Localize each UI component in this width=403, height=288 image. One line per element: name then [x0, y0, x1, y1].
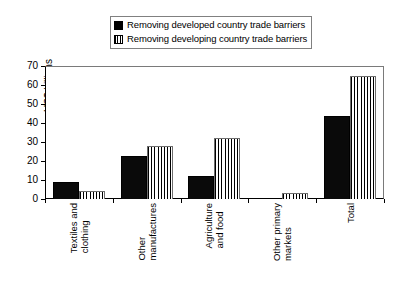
vertical-stripe-swatch-icon [114, 35, 123, 44]
bar-series1 [121, 156, 147, 199]
bar-chart: Removing developed country trade barrier… [0, 0, 403, 288]
x-axis-label-line2: manufactures [147, 203, 158, 261]
bar-group [248, 66, 316, 199]
x-tick-mark [384, 199, 385, 203]
bar-group [316, 66, 384, 199]
x-axis-labels: Textiles andclothingOthermanufacturesAgr… [45, 203, 384, 288]
bar-group [45, 66, 113, 199]
y-tick-label: 0 [32, 193, 38, 204]
legend-item-developing: Removing developing country trade barrie… [114, 33, 307, 45]
x-label-cell: Othermanufactures [113, 203, 181, 288]
y-tick-label: 20 [27, 155, 38, 166]
bar-group [113, 66, 181, 199]
x-axis-label: Textiles andclothing [68, 203, 90, 253]
y-tick-label: 60 [27, 79, 38, 90]
x-axis-label-line2: markets [282, 203, 293, 261]
x-axis-label-line1: Agriculture [203, 203, 214, 248]
chart-legend: Removing developed country trade barrier… [110, 16, 312, 49]
y-tick-label: 40 [27, 117, 38, 128]
x-label-cell: Total [316, 203, 384, 288]
x-axis-label-line2: clothing [79, 203, 90, 253]
legend-label-developed: Removing developed country trade barrier… [127, 20, 305, 30]
y-axis-ticks: 010203040506070 [0, 0, 45, 200]
bar-series2 [79, 191, 105, 199]
x-label-cell: Other primarymarkets [248, 203, 316, 288]
y-tick-label: 30 [27, 136, 38, 147]
y-tick-label: 10 [27, 174, 38, 185]
solid-black-swatch-icon [114, 21, 123, 30]
legend-label-developing: Removing developing country trade barrie… [127, 34, 307, 44]
legend-item-developed: Removing developed country trade barrier… [114, 19, 307, 31]
bar-series2 [350, 76, 376, 200]
x-axis-label-line1: Other [136, 237, 147, 261]
x-axis-label-line2: and food [214, 203, 225, 248]
bar-series2 [147, 146, 173, 199]
x-axis-label-line1: Total [345, 203, 356, 223]
x-label-cell: Agricultureand food [181, 203, 249, 288]
bar-series2 [214, 138, 240, 199]
x-label-cell: Textiles andclothing [45, 203, 113, 288]
x-axis-label: Total [345, 203, 356, 223]
bar-series1 [53, 182, 79, 199]
x-axis-label-line1: Other primary [271, 203, 282, 261]
y-tick-label: 70 [27, 60, 38, 71]
bar-group [181, 66, 249, 199]
plot-area [45, 66, 384, 199]
bar-series1 [324, 116, 350, 199]
y-tick-label: 50 [27, 98, 38, 109]
x-axis-label: Other primarymarkets [271, 203, 293, 261]
x-axis-label: Agricultureand food [203, 203, 225, 248]
bar-series1 [188, 176, 214, 199]
x-axis-label-line1: Textiles and [68, 203, 79, 253]
x-axis-label: Othermanufactures [136, 203, 158, 261]
